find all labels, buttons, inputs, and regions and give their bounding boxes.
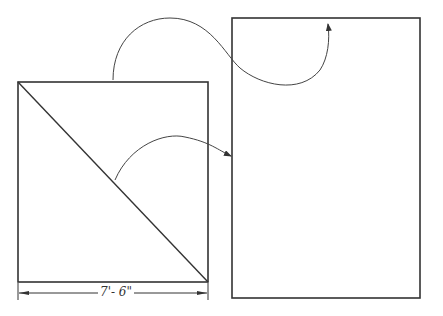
diagram-canvas bbox=[0, 0, 443, 316]
diagonal-cut bbox=[18, 82, 208, 282]
arc-arrow bbox=[115, 136, 231, 180]
dimension-label: 7'- 6" bbox=[98, 285, 134, 299]
s-curve-arrow bbox=[113, 18, 329, 85]
rectangle-panel bbox=[232, 18, 420, 298]
